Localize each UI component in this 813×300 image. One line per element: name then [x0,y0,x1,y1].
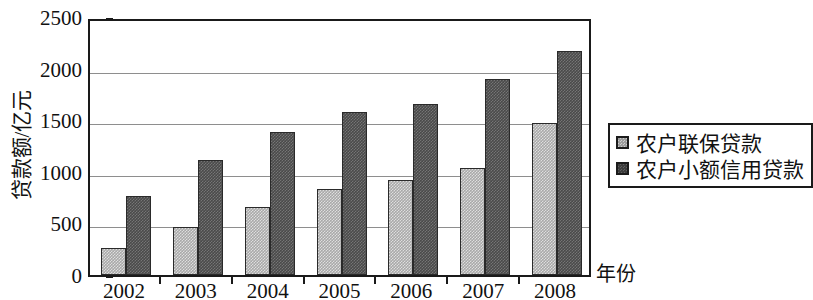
x-axis-tick-label: 2007 [443,281,523,300]
x-axis-tick-label: 2002 [84,281,164,300]
y-axis-tick-labels: 05001000150020002500 [24,0,82,300]
bar-2007-series-1 [460,168,485,275]
chart-legend: 农户联保贷款 农户小额信用贷款 [608,123,813,188]
bar-2004-series-2 [270,132,295,275]
bar-2005-series-2 [342,112,367,275]
y-axis-tick-label: 2000 [27,60,82,81]
bar-2002-series-2 [126,196,151,275]
bar-2008-series-2 [557,51,582,275]
bar-2004-series-1 [245,207,270,275]
bar-2002-series-1 [101,248,126,275]
x-axis-tick-label: 2008 [515,281,595,300]
y-axis-tick-label: 2500 [27,8,82,29]
legend-item: 农户联保贷款 [616,129,804,155]
bar-2007-series-2 [485,79,510,275]
bar-2003-series-2 [198,160,223,275]
x-axis-tick-mark [159,277,161,284]
legend-item: 农户小额信用贷款 [616,155,804,181]
y-axis-tick-label: 1000 [27,163,82,184]
plot-area [88,19,591,277]
bar-2006-series-2 [413,104,438,275]
x-axis-tick-label: 2005 [300,281,380,300]
x-axis-tick-mark [518,277,520,284]
bar-chart: 贷款额/亿元 05001000150020002500 200220032004… [0,0,813,300]
y-axis-tick-label: 0 [27,266,82,287]
bar-2008-series-1 [532,123,557,275]
x-axis-tick-mark [231,277,233,284]
x-axis-tick-mark [303,277,305,284]
legend-item-label: 农户小额信用贷款 [636,153,804,183]
x-axis-tick-mark [374,277,376,284]
bar-2006-series-1 [388,180,413,275]
bar-series-container [90,21,589,275]
bar-2003-series-1 [173,227,198,275]
x-axis-title: 年份 [596,258,636,287]
legend-swatch-icon [616,162,629,175]
y-axis-tick-label: 500 [27,214,82,235]
x-axis-tick-label: 2006 [371,281,451,300]
legend-swatch-icon [616,136,629,149]
x-axis-tick-label: 2003 [156,281,236,300]
y-axis-tick-label: 1500 [27,111,82,132]
x-axis-tick-label: 2004 [228,281,308,300]
bar-2005-series-1 [317,189,342,275]
x-axis-tick-mark [446,277,448,284]
